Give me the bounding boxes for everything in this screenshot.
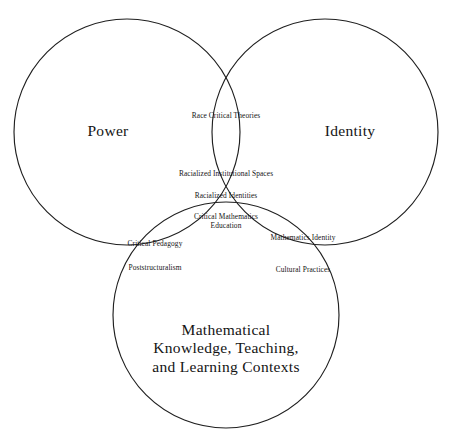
region-item-mathematics-identity: Mathematics Identity bbox=[270, 234, 335, 243]
set-label-identity: Identity bbox=[325, 122, 376, 140]
set-label-power: Power bbox=[87, 122, 128, 140]
region-item-poststructuralism: Poststructuralism bbox=[128, 264, 181, 273]
region-item-racialized-institutional-spaces: Racialized Institutional Spaces bbox=[179, 170, 273, 179]
region-item-critical-pedagogy: Critical Pedagogy bbox=[128, 240, 183, 249]
venn-diagram: Power Identity Mathematical Knowledge, T… bbox=[0, 0, 453, 443]
critical-mathematics-education-line-2: Education bbox=[166, 222, 286, 231]
region-item-cultural-practices: Cultural Practices bbox=[276, 266, 331, 275]
region-item-critical-mathematics-education: Critical Mathematics Education bbox=[166, 213, 286, 230]
region-item-race-critical-theories: Race Critical Theories bbox=[192, 112, 261, 121]
set-label-math-line-1: Mathematical bbox=[111, 321, 341, 339]
set-label-math-line-2: Knowledge, Teaching, bbox=[111, 339, 341, 357]
set-label-mathematical-knowledge: Mathematical Knowledge, Teaching, and Le… bbox=[111, 321, 341, 376]
region-item-racialized-identities: Racialized Identities bbox=[195, 192, 258, 201]
set-label-math-line-3: and Learning Contexts bbox=[111, 357, 341, 375]
